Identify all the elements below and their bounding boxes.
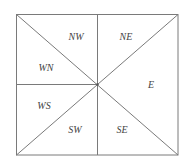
region-label-nw: NW: [68, 31, 86, 42]
region-label-e: E: [147, 79, 154, 90]
compass-diagram: NW NE WN E WS SW SE: [0, 0, 190, 165]
center-point: [96, 83, 98, 85]
region-label-sw: SW: [68, 124, 83, 135]
region-label-se: SE: [116, 124, 127, 135]
region-label-wn: WN: [39, 62, 55, 73]
region-label-ws: WS: [37, 100, 50, 111]
region-label-ne: NE: [119, 31, 133, 42]
